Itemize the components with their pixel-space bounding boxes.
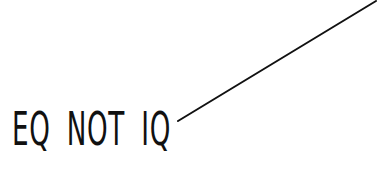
caption-text: EQ NOT IQ <box>12 104 171 154</box>
illustration-canvas: EQ NOT IQ <box>0 0 377 175</box>
